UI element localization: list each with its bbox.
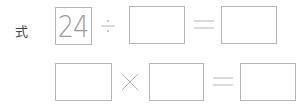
dividend-box[interactable]: 24 — [55, 7, 92, 45]
multiply-sign — [121, 73, 139, 91]
expression-label: 式 — [15, 21, 28, 40]
equals-sign-1 — [194, 20, 214, 29]
dividend-value: 24 — [58, 9, 89, 44]
product-box[interactable] — [240, 63, 296, 101]
divisor-box[interactable] — [129, 6, 185, 44]
quotient-box[interactable] — [221, 6, 277, 44]
divide-sign — [101, 19, 115, 33]
equals-sign-2 — [213, 77, 233, 86]
factor1-box[interactable] — [55, 63, 112, 101]
factor2-box[interactable] — [149, 63, 204, 101]
